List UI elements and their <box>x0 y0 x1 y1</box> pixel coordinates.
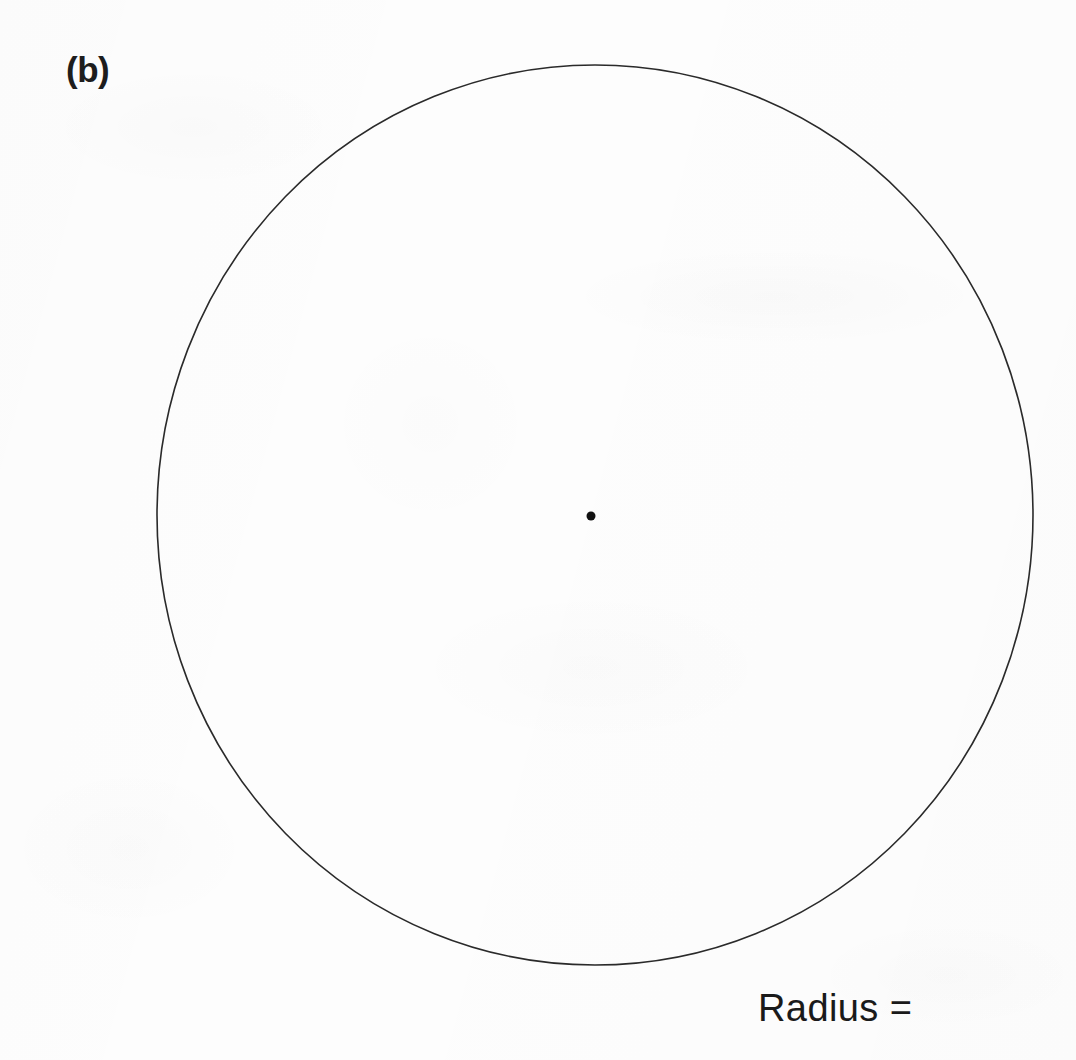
radius-label: Radius = <box>758 989 912 1027</box>
circle-diagram <box>0 0 1076 1060</box>
center-point-dot <box>587 512 596 521</box>
figure-page: (b) Radius = <box>0 0 1076 1060</box>
